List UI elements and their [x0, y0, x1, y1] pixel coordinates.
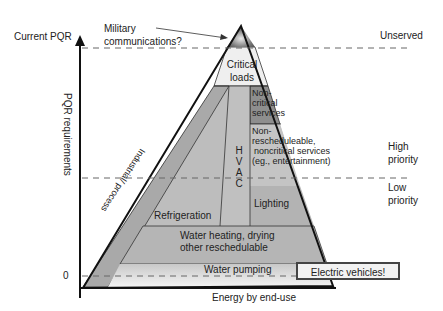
zero-label: 0	[63, 270, 69, 282]
high-priority-label: High priority	[388, 140, 428, 166]
water-pumping-label: Water pumping	[204, 264, 271, 276]
military-label: Military communications?	[104, 22, 194, 48]
unserved-label: Unserved	[380, 30, 423, 42]
noncritical-label: Non-critical services	[252, 88, 282, 118]
y-axis-arrowhead	[75, 35, 85, 46]
low-priority-label: Low priority	[388, 181, 428, 207]
y-axis-label: PQR requirements	[62, 93, 73, 176]
current-pqr-label: Current PQR	[14, 30, 72, 44]
refrigeration-label: Refrigeration	[154, 210, 211, 222]
critical-loads-label: Critical loads	[222, 58, 262, 84]
x-axis-label: Energy by end-use	[212, 292, 296, 304]
electric-vehicles-box: Electric vehicles!	[296, 262, 400, 280]
nonresched-label: Non- rescheduleable, noncritical service…	[252, 126, 331, 166]
water-heating-label: Water heating, drying other reschedulabl…	[180, 230, 300, 254]
hvac-label: H V A C	[233, 145, 245, 189]
lighting-label: Lighting	[254, 198, 289, 210]
